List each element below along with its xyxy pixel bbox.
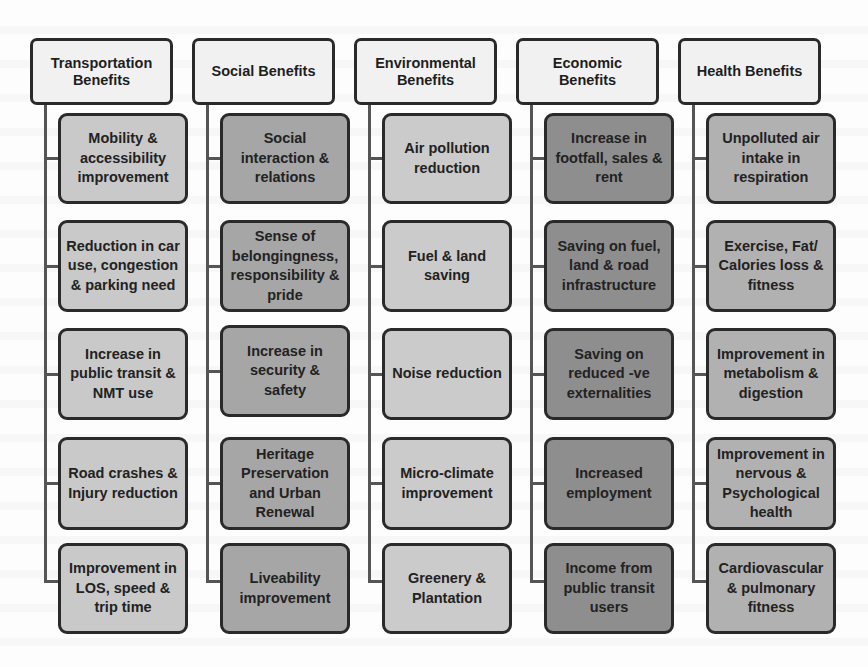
benefit-label: Increase in security & safety — [227, 342, 343, 401]
benefit-label: Social interaction & relations — [227, 129, 343, 188]
benefit-label: Increase in public transit & NMT use — [65, 345, 181, 404]
header-label: Social Benefits — [212, 63, 316, 80]
benefit-item: Increase in public transit & NMT use — [58, 328, 188, 420]
benefit-item: Air pollution reduction — [382, 113, 512, 204]
benefit-label: Greenery & Plantation — [389, 569, 505, 608]
column-social: Social Benefits Social interaction & rel… — [192, 0, 362, 667]
benefit-item: Saving on reduced -ve externalities — [544, 328, 674, 420]
benefit-label: Noise reduction — [392, 364, 502, 384]
connector-vertical — [368, 105, 371, 582]
benefit-label: Reduction in car use, congestion & parki… — [65, 237, 181, 296]
header-environmental-benefits: Environmental Benefits — [354, 38, 497, 105]
benefit-item: Exercise, Fat/ Calories loss & fitness — [706, 220, 836, 312]
benefit-item: Micro-climate improvement — [382, 437, 512, 530]
benefit-label: Cardiovascular & pulmonary fitness — [713, 559, 829, 618]
benefit-label: Improvement in LOS, speed & trip time — [65, 559, 181, 618]
benefit-item: Improvement in metabolism & digestion — [706, 328, 836, 420]
benefit-item: Sense of belongingness, responsibility &… — [220, 220, 350, 312]
benefit-item: Social interaction & relations — [220, 113, 350, 204]
header-label: Health Benefits — [697, 63, 803, 80]
benefit-label: Air pollution reduction — [389, 139, 505, 178]
connector-vertical — [44, 105, 47, 582]
header-social-benefits: Social Benefits — [192, 38, 335, 105]
header-economic-benefits: Economic Benefits — [516, 38, 659, 105]
benefit-item: Unpolluted air intake in respiration — [706, 113, 836, 204]
benefit-item: Liveability improvement — [220, 543, 350, 634]
benefit-item: Improvement in nervous & Psychological h… — [706, 437, 836, 530]
benefit-label: Road crashes & Injury reduction — [65, 464, 181, 503]
benefit-item: Mobility & accessibility improvement — [58, 113, 188, 204]
benefit-item: Reduction in car use, congestion & parki… — [58, 220, 188, 312]
benefit-item: Increase in footfall, sales & rent — [544, 113, 674, 204]
benefit-item: Fuel & land saving — [382, 220, 512, 312]
benefit-item: Noise reduction — [382, 328, 512, 420]
benefit-item: Road crashes & Injury reduction — [58, 437, 188, 530]
benefit-item: Improvement in LOS, speed & trip time — [58, 543, 188, 634]
benefit-label: Unpolluted air intake in respiration — [713, 129, 829, 188]
benefit-label: Saving on reduced -ve externalities — [551, 345, 667, 404]
benefit-item: Heritage Preservation and Urban Renewal — [220, 437, 350, 530]
benefit-item: Income from public transit users — [544, 543, 674, 634]
benefit-item: Saving on fuel, land & road infrastructu… — [544, 220, 674, 312]
benefit-item: Increase in security & safety — [220, 325, 350, 417]
connector-vertical — [206, 105, 209, 582]
header-label: Economic Benefits — [523, 55, 652, 89]
benefit-label: Mobility & accessibility improvement — [65, 129, 181, 188]
benefit-label: Improvement in nervous & Psychological h… — [713, 445, 829, 523]
benefit-item: Increased employment — [544, 437, 674, 530]
header-transportation-benefits: Transportation Benefits — [30, 38, 173, 105]
benefit-label: Improvement in metabolism & digestion — [713, 345, 829, 404]
benefits-diagram: Transportation Benefits Mobility & acces… — [0, 0, 868, 667]
benefit-label: Liveability improvement — [227, 569, 343, 608]
benefit-label: Increase in footfall, sales & rent — [551, 129, 667, 188]
column-environmental: Environmental Benefits Air pollution red… — [354, 0, 524, 667]
column-transportation: Transportation Benefits Mobility & acces… — [30, 0, 200, 667]
header-label: Transportation Benefits — [37, 55, 166, 89]
benefit-label: Micro-climate improvement — [389, 464, 505, 503]
header-health-benefits: Health Benefits — [678, 38, 821, 105]
connector-vertical — [530, 105, 533, 582]
benefit-label: Income from public transit users — [551, 559, 667, 618]
benefit-label: Exercise, Fat/ Calories loss & fitness — [713, 237, 829, 296]
benefit-label: Sense of belongingness, responsibility &… — [227, 227, 343, 305]
benefit-item: Cardiovascular & pulmonary fitness — [706, 543, 836, 634]
benefit-item: Greenery & Plantation — [382, 543, 512, 634]
connector-vertical — [692, 105, 695, 582]
benefit-label: Saving on fuel, land & road infrastructu… — [551, 237, 667, 296]
column-health: Health Benefits Unpolluted air intake in… — [678, 0, 848, 667]
column-economic: Economic Benefits Increase in footfall, … — [516, 0, 686, 667]
benefit-label: Increased employment — [551, 464, 667, 503]
benefit-label: Heritage Preservation and Urban Renewal — [227, 445, 343, 523]
header-label: Environmental Benefits — [361, 55, 490, 89]
benefit-label: Fuel & land saving — [389, 247, 505, 286]
